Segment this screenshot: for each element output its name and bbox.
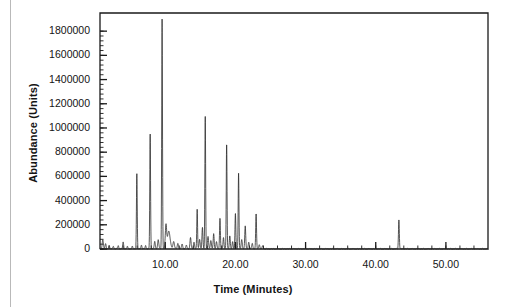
x-tick-label: 10.00 xyxy=(135,258,195,270)
x-axis-title: Time (Minutes) xyxy=(0,283,506,295)
y-axis-ticks xyxy=(100,31,107,249)
x-tick-label: 30.00 xyxy=(276,258,336,270)
chromatogram-figure: 0200000400000600000800000100000012000001… xyxy=(0,0,506,307)
y-tick-label: 0 xyxy=(18,242,90,254)
y-tick-label: 1800000 xyxy=(18,24,90,36)
y-axis-title: Abundance (Units) xyxy=(27,38,39,228)
x-tick-label: 20.00 xyxy=(205,258,265,270)
plot-frame xyxy=(100,13,488,249)
x-tick-label: 50.00 xyxy=(416,258,476,270)
x-tick-label: 40.00 xyxy=(346,258,406,270)
chromatogram-trace xyxy=(100,19,488,249)
